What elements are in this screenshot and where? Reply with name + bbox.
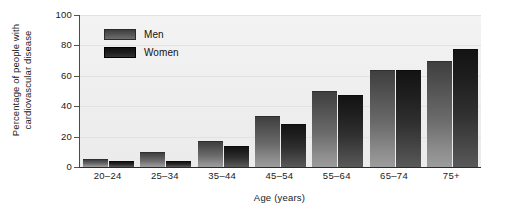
bar-women-20-24 xyxy=(109,161,134,167)
bar-men-25-34 xyxy=(140,152,165,167)
legend-label: Women xyxy=(144,46,179,59)
chart-legend: MenWomen xyxy=(104,28,224,68)
legend-item-women: Women xyxy=(104,46,214,60)
y-axis-tick-labels: 020406080100 xyxy=(44,0,72,180)
bar-men-45-54 xyxy=(255,116,280,167)
x-axis-title: Age (years) xyxy=(79,192,480,203)
y-axis-tick-label: 100 xyxy=(46,10,72,20)
bar-chart-figure: Percentage of people with cardiovascular… xyxy=(0,0,507,216)
y-axis-tick-label: 40 xyxy=(46,101,72,111)
bar-men-20-24 xyxy=(83,159,108,167)
x-axis-tick-label: 75+ xyxy=(423,170,480,181)
x-axis-tick-label: 45–54 xyxy=(251,170,308,181)
bar-group xyxy=(370,15,421,167)
y-axis-tick-label: 60 xyxy=(46,71,72,81)
x-axis-tick-label: 55–64 xyxy=(308,170,365,181)
x-axis-tick-label: 25–34 xyxy=(136,170,193,181)
bar-women-75+ xyxy=(453,49,478,167)
legend-item-men: Men xyxy=(104,28,214,42)
bar-men-65-74 xyxy=(370,70,395,167)
bar-women-55-64 xyxy=(338,95,363,167)
y-axis-tick-mark xyxy=(74,137,79,138)
y-axis-tick-label: 0 xyxy=(46,162,72,172)
y-axis-title: Percentage of people with cardiovascular… xyxy=(10,4,34,156)
y-axis-tick-mark xyxy=(74,45,79,46)
x-axis-tick-label: 20–24 xyxy=(79,170,136,181)
bar-women-35-44 xyxy=(224,146,249,167)
x-axis-tick-labels: 20–2425–3435–4445–5455–6465–7475+ xyxy=(79,170,480,186)
bar-group xyxy=(427,15,478,167)
bar-men-55-64 xyxy=(312,91,337,167)
x-axis-tick-label: 35–44 xyxy=(194,170,251,181)
bar-group xyxy=(312,15,363,167)
legend-label: Men xyxy=(144,28,164,41)
x-axis-tick-label: 65–74 xyxy=(365,170,422,181)
bar-group xyxy=(255,15,306,167)
bar-women-65-74 xyxy=(396,70,421,167)
bar-women-45-54 xyxy=(281,124,306,167)
y-axis-tick-mark xyxy=(74,15,79,16)
y-axis-tick-label: 20 xyxy=(46,132,72,142)
bar-women-25-34 xyxy=(166,161,191,167)
y-axis-tick-mark xyxy=(74,106,79,107)
men-swatch xyxy=(104,29,136,40)
y-axis-tick-label: 80 xyxy=(46,40,72,50)
y-axis-tick-mark xyxy=(74,76,79,77)
y-axis-title-container: Percentage of people with cardiovascular… xyxy=(0,0,44,180)
women-swatch xyxy=(104,47,136,58)
y-axis-tick-mark xyxy=(74,167,79,168)
bar-men-75+ xyxy=(427,61,452,167)
bar-men-35-44 xyxy=(198,141,223,167)
